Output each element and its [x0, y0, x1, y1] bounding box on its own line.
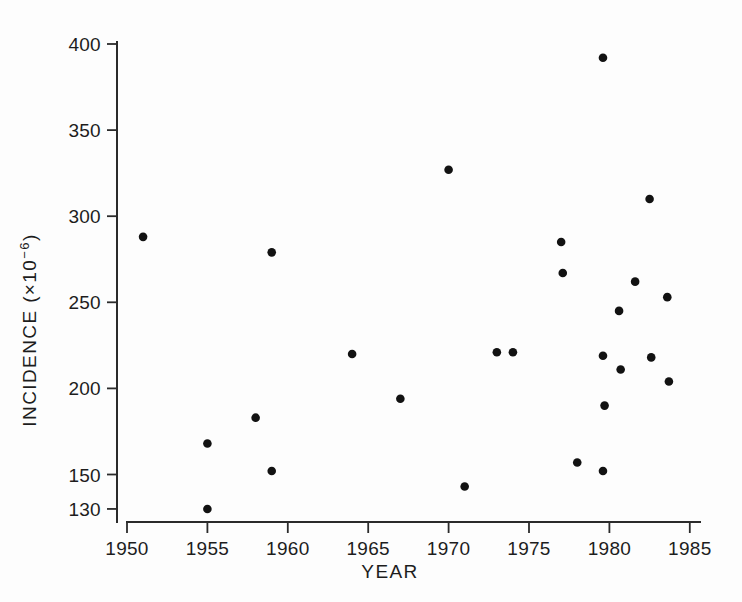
y-axis-title-exponent: −6	[17, 241, 32, 259]
data-point	[203, 505, 212, 514]
y-axis-title-main: INCIDENCE (×10	[19, 259, 40, 427]
data-point	[599, 53, 608, 62]
y-axis-tick-label: 130	[68, 499, 101, 520]
data-point	[557, 238, 566, 247]
x-axis-tick-label: 1970	[427, 538, 470, 559]
x-axis-tick-label: 1975	[507, 538, 550, 559]
data-point	[631, 277, 640, 286]
data-point	[600, 401, 609, 410]
data-point	[558, 269, 567, 278]
x-axis-tick-group: 19501955196019651970197519801985	[105, 522, 711, 559]
data-point	[573, 458, 582, 467]
data-point	[267, 467, 276, 476]
data-point	[348, 350, 357, 359]
y-axis-tick-label: 300	[68, 206, 101, 227]
data-point	[645, 195, 654, 204]
y-axis-tick-group: 130150200250300350400	[68, 34, 118, 520]
data-point	[203, 439, 212, 448]
x-axis-tick-label: 1955	[186, 538, 229, 559]
data-point	[139, 233, 148, 242]
y-axis-tick-label: 400	[68, 34, 101, 55]
data-point	[615, 307, 624, 316]
scatter-plot-figure: 130150200250300350400 195019551960196519…	[0, 0, 742, 602]
data-point	[599, 467, 608, 476]
data-point	[251, 413, 260, 422]
data-point	[647, 353, 656, 362]
x-axis-title: YEAR	[361, 561, 418, 582]
data-point-group	[139, 53, 673, 513]
data-point	[444, 165, 453, 174]
y-axis-title: INCIDENCE (×10−6)	[17, 233, 40, 426]
data-point	[663, 293, 672, 302]
x-axis-tick-label: 1985	[668, 538, 711, 559]
data-point	[599, 351, 608, 360]
x-axis-tick-label: 1960	[266, 538, 309, 559]
y-axis-tick-label: 350	[68, 120, 101, 141]
data-point	[665, 377, 674, 386]
x-axis-tick-label: 1980	[588, 538, 631, 559]
data-point	[616, 365, 625, 374]
data-point	[267, 248, 276, 257]
data-point	[509, 348, 518, 357]
y-axis-tick-label: 250	[68, 292, 101, 313]
y-axis-tick-label: 150	[68, 465, 101, 486]
x-axis-tick-label: 1950	[105, 538, 148, 559]
data-point	[396, 394, 405, 403]
y-axis-tick-label: 200	[68, 378, 101, 399]
y-axis-title-close: )	[19, 233, 40, 241]
data-point	[460, 482, 469, 491]
x-axis-tick-label: 1965	[346, 538, 389, 559]
plot-canvas: 130150200250300350400 195019551960196519…	[0, 0, 742, 602]
data-point	[493, 348, 502, 357]
